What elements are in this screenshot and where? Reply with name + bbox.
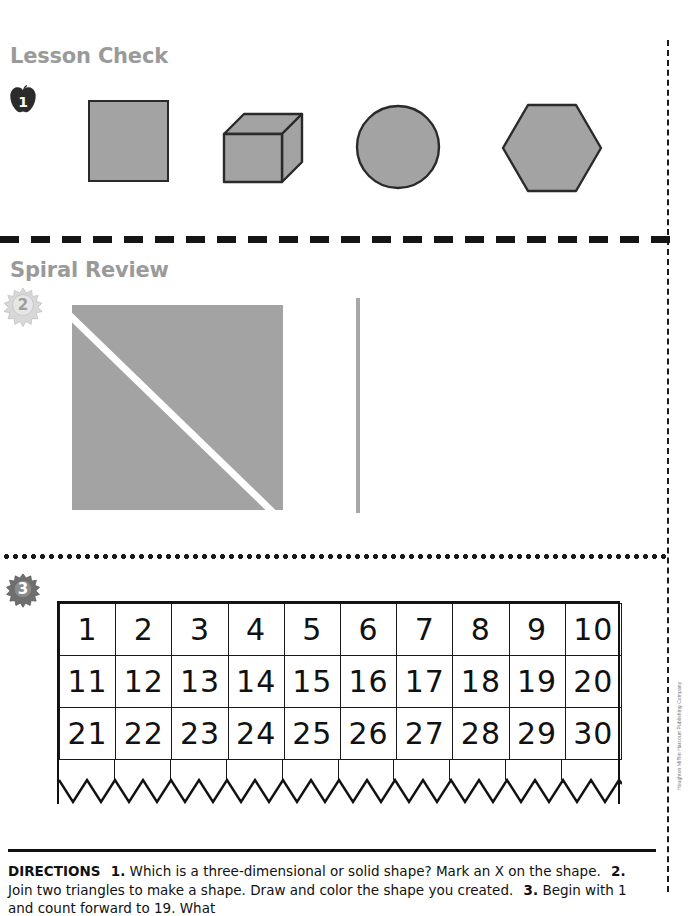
item-number-badge-2: 2 [6,288,40,322]
section-heading-spiral-review: Spiral Review [10,258,169,282]
number-chart-frame: 1234567891011121314151617181920212223242… [57,601,620,760]
number-chart-cell[interactable]: 25 [284,708,340,760]
number-chart-cell[interactable]: 14 [228,656,284,708]
number-chart-cell[interactable]: 24 [228,708,284,760]
item-number-badge-3: 3 [6,572,40,606]
number-chart-cell[interactable]: 23 [172,708,228,760]
shape-hexagon [500,102,604,198]
number-chart-cell[interactable]: 16 [340,656,396,708]
directions-rule [8,849,656,852]
number-chart-row: 11121314151617181920 [60,656,622,708]
number-chart-cell[interactable]: 6 [340,604,396,656]
copyright-notice: Houghton Mifflin Harcourt Publishing Com… [676,682,682,790]
number-chart-cell[interactable]: 13 [172,656,228,708]
item-number-badge-2-text: 2 [18,298,28,313]
directions-item-2-text: Join two triangles to make a shape. Draw… [8,882,513,898]
number-chart-cell[interactable]: 30 [565,708,621,760]
number-chart-cell[interactable]: 20 [565,656,621,708]
number-chart-cell[interactable]: 4 [228,604,284,656]
cut-line-vertical [667,40,669,892]
number-chart-cell[interactable]: 12 [116,656,172,708]
directions-text: DIRECTIONS 1. Which is a three-dimension… [8,862,648,916]
number-chart-cell[interactable]: 28 [453,708,509,760]
number-chart-cell[interactable]: 22 [116,708,172,760]
number-chart-cell[interactable]: 15 [284,656,340,708]
shape-circle [355,104,441,194]
shape-square [88,100,169,182]
number-chart-cell[interactable]: 11 [60,656,116,708]
directions-item-1-number: 1. [111,863,126,879]
number-chart-cell[interactable]: 5 [284,604,340,656]
number-chart-cell[interactable]: 21 [60,708,116,760]
item-number-badge-1-text: 1 [18,95,28,109]
divider-dotted [2,554,670,559]
number-chart-torn-edge [57,760,620,804]
number-chart-cell[interactable]: 29 [509,708,565,760]
number-chart-cell[interactable]: 27 [397,708,453,760]
number-chart-row: 21222324252627282930 [60,708,622,760]
figure-vertical-bar [356,298,360,513]
item-number-badge-3-text: 3 [18,582,28,597]
number-chart-cell[interactable]: 18 [453,656,509,708]
number-chart-cell[interactable]: 26 [340,708,396,760]
worksheet-page: Lesson Check 1 Spiral Review 2 [0,0,693,916]
section-heading-lesson-check: Lesson Check [10,44,168,68]
figure-two-triangles [72,305,283,510]
directions-label: DIRECTIONS [8,863,100,879]
number-chart-row: 12345678910 [60,604,622,656]
diagonal-split-line [59,305,279,519]
number-chart-cell[interactable]: 8 [453,604,509,656]
shape-cube [222,112,304,188]
divider-dashed [0,236,672,243]
number-chart-cell[interactable]: 1 [60,604,116,656]
number-chart: 1234567891011121314151617181920212223242… [57,601,620,804]
number-chart-table: 1234567891011121314151617181920212223242… [59,603,622,760]
number-chart-cell[interactable]: 3 [172,604,228,656]
number-chart-cell[interactable]: 10 [565,604,621,656]
item-number-badge-1: 1 [6,84,40,118]
directions-item-1-text: Which is a three-dimensional or solid sh… [130,863,601,879]
directions-item-3-number: 3. [524,882,539,898]
number-chart-cell[interactable]: 2 [116,604,172,656]
number-chart-cell[interactable]: 9 [509,604,565,656]
number-chart-cell[interactable]: 19 [509,656,565,708]
number-chart-cell[interactable]: 17 [397,656,453,708]
directions-item-2-number: 2. [611,863,626,879]
number-chart-cell[interactable]: 7 [397,604,453,656]
